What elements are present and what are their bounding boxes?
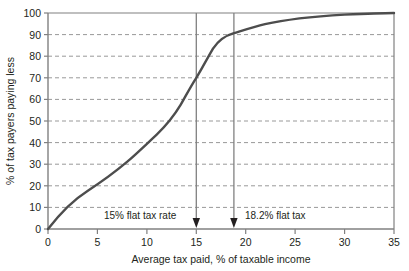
y-tick-label-80: 80 <box>29 50 41 62</box>
y-tick-label-10: 10 <box>29 201 41 213</box>
x-tick-label-0: 0 <box>45 236 51 248</box>
y-tick-label-50: 50 <box>29 115 41 127</box>
x-tick-label-35: 35 <box>388 236 400 248</box>
y-tick-label-30: 30 <box>29 158 41 170</box>
y-tick-label-70: 70 <box>29 72 41 84</box>
x-tick-label-30: 30 <box>339 236 351 248</box>
annotation-label-18-2: 18.2% flat tax <box>245 210 306 221</box>
x-tick-label-10: 10 <box>141 236 153 248</box>
x-tick-label-20: 20 <box>240 236 252 248</box>
y-tick-label-90: 90 <box>29 29 41 41</box>
y-axis-title: % of tax payers paying less <box>4 57 16 185</box>
x-axis-ticks <box>48 229 394 234</box>
y-axis-tick-labels: 100 90 80 70 60 50 40 30 20 10 0 <box>23 7 41 235</box>
x-axis-title: Average tax paid, % of taxable income <box>132 253 311 265</box>
x-axis-tick-labels: 0 5 10 15 20 25 30 35 <box>45 236 400 248</box>
y-tick-label-20: 20 <box>29 180 41 192</box>
annotation-label-15: 15% flat tax rate <box>104 210 177 221</box>
chart-figure: 100 90 80 70 60 50 40 30 20 10 0 0 5 <box>0 0 409 271</box>
y-tick-label-100: 100 <box>23 7 41 19</box>
y-tick-label-60: 60 <box>29 93 41 105</box>
x-tick-label-5: 5 <box>94 236 100 248</box>
x-tick-label-15: 15 <box>190 236 202 248</box>
x-tick-label-25: 25 <box>289 236 301 248</box>
tax-distribution-chart: 100 90 80 70 60 50 40 30 20 10 0 0 5 <box>0 0 409 271</box>
y-tick-label-0: 0 <box>35 223 41 235</box>
y-tick-label-40: 40 <box>29 137 41 149</box>
